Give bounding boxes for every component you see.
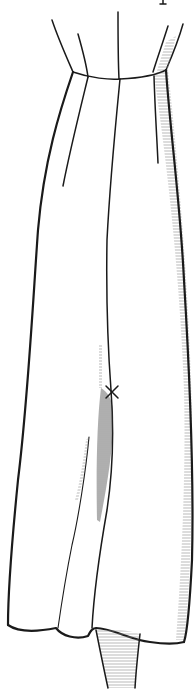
hem — [8, 625, 184, 644]
slit-shadow-upper — [99, 345, 102, 388]
leg — [96, 629, 140, 688]
skirt-left-edge — [8, 72, 73, 625]
center-seam — [92, 79, 120, 628]
bodice-lines — [52, 12, 183, 79]
slit-shadow — [97, 388, 113, 522]
cropped-glyph-fragment — [160, 0, 166, 4]
skirt-illustration: × — [0, 0, 194, 694]
